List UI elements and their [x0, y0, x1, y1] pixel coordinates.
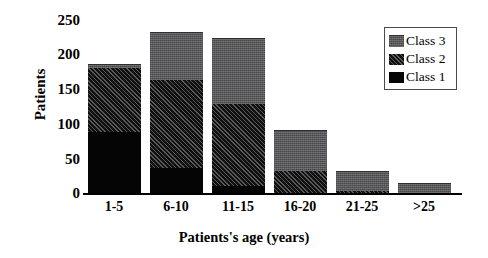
- legend-entry-class-3: Class 3: [389, 32, 453, 50]
- legend-label-class-1: Class 1: [406, 70, 445, 84]
- legend-entry-class-2: Class 2: [389, 50, 453, 68]
- grey-texture-swatch-icon: [389, 35, 404, 47]
- bar-segment-class2: [336, 191, 389, 193]
- bar-segment-class3: [212, 38, 265, 104]
- bar-segment-class3: [150, 32, 203, 80]
- bar-segment-class1: [150, 168, 203, 193]
- x-tick-over-25: >25: [393, 199, 455, 216]
- x-tick-16-20: 16-20: [269, 199, 331, 216]
- bar-segment-class3: [336, 171, 389, 191]
- x-tick-21-25: 21-25: [331, 199, 393, 216]
- x-tick-11-15: 11-15: [207, 199, 269, 216]
- x-axis-title: Patients's age (years): [0, 229, 488, 246]
- black-swatch-icon: [389, 72, 404, 83]
- y-tick-0: 0: [8, 186, 80, 201]
- bar-chart-figure: 250 200 150 100 50 0 Patients: [0, 0, 488, 258]
- x-axis-tick-labels: 1-5 6-10 11-15 16-20 21-25 >25: [83, 199, 462, 219]
- x-axis-line: [83, 193, 462, 195]
- bar-segment-class2: [274, 171, 327, 193]
- bar-segment-class1: [212, 186, 265, 193]
- bar-segment-class2: [212, 104, 265, 186]
- bar-segment-class3: [88, 64, 141, 68]
- x-tick-6-10: 6-10: [145, 199, 207, 216]
- hatched-swatch-icon: [389, 54, 404, 65]
- bar-segment-class3: [398, 183, 451, 193]
- x-tick-1-5: 1-5: [83, 199, 145, 216]
- chart-legend: Class 3 Class 2 Class 1: [384, 27, 457, 90]
- bar-segment-class3: [274, 130, 327, 171]
- bar-segment-class1: [88, 132, 141, 193]
- bar-segment-class2: [88, 68, 141, 132]
- legend-label-class-2: Class 2: [406, 52, 445, 66]
- legend-label-class-3: Class 3: [406, 34, 445, 48]
- y-axis-title: Patients: [32, 35, 49, 155]
- bar-segment-class2: [150, 80, 203, 168]
- legend-entry-class-1: Class 1: [389, 68, 453, 86]
- y-tick-250: 250: [8, 13, 80, 28]
